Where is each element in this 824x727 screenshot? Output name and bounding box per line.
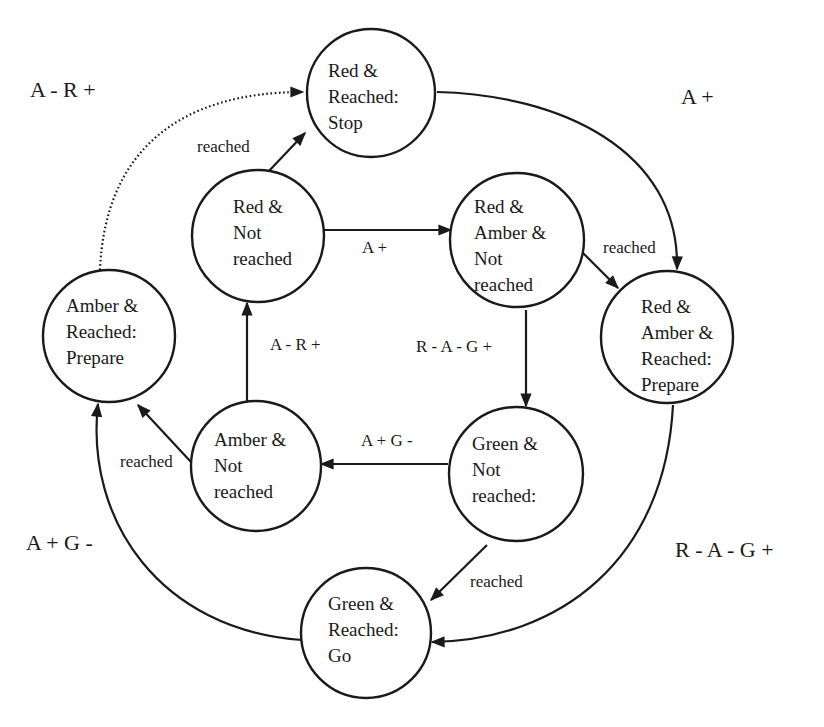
label-a-plus-g-minus-outer: A + G - — [26, 530, 93, 555]
node-line: Reached: — [641, 348, 712, 369]
node-line: Not — [472, 459, 501, 480]
node-line: Red & — [328, 60, 378, 81]
state-amber-not-reached: Amber & Not reached — [191, 401, 321, 531]
node-line: Not — [214, 455, 243, 476]
state-red-reached-stop: Red & Reached: Stop — [307, 29, 435, 157]
node-line: Amber & — [214, 429, 287, 450]
state-red-amber-not-reached: Red & Amber & Not reached — [450, 173, 584, 307]
node-line: Prepare — [641, 374, 699, 395]
node-line: Green & — [472, 433, 538, 454]
node-line: Go — [328, 645, 351, 666]
node-line: Red & — [641, 296, 691, 317]
label-a-plus-outer: A + — [681, 84, 714, 109]
node-line: reached: — [472, 485, 536, 506]
node-line: Stop — [328, 112, 363, 133]
edge-red-not-to-red-reached — [268, 133, 305, 172]
traffic-light-state-diagram: Red & Reached: Stop Red & Not reached Re… — [0, 0, 824, 727]
node-line: reached — [233, 248, 293, 269]
state-red-not-reached: Red & Not reached — [192, 170, 324, 302]
node-line: Amber & — [474, 222, 547, 243]
label-amber-not-reached: reached — [120, 452, 173, 471]
node-line: Not — [233, 222, 262, 243]
node-line: Amber & — [66, 295, 139, 316]
label-red-not-reached: reached — [197, 137, 250, 156]
state-green-not-reached: Green & Not reached: — [449, 407, 583, 541]
node-line: Reached: — [328, 86, 399, 107]
node-line: Not — [474, 248, 503, 269]
label-green-not-reached: reached — [470, 572, 523, 591]
node-line: reached — [214, 481, 274, 502]
node-line: Reached: — [66, 321, 137, 342]
state-amber-reached-prepare: Amber & Reached: Prepare — [43, 270, 175, 402]
label-a-plus-g-minus-inner: A + G - — [361, 431, 413, 450]
state-green-reached-go: Green & Reached: Go — [301, 568, 431, 698]
label-r-minus-a-minus-g-plus-outer: R - A - G + — [675, 537, 774, 562]
node-line: Green & — [328, 593, 394, 614]
node-line: Reached: — [328, 619, 399, 640]
node-line: reached — [474, 274, 534, 295]
state-red-amber-reached-prepare: Red & Amber & Reached: Prepare — [601, 271, 733, 403]
label-a-minus-r-plus-inner: A - R + — [270, 335, 321, 354]
node-line: Amber & — [641, 322, 714, 343]
node-line: Red & — [233, 196, 283, 217]
label-red-not-a-plus: A + — [362, 238, 387, 257]
label-red-amber-not-reached: reached — [603, 238, 656, 257]
label-r-minus-a-minus-g-plus-inner: R - A - G + — [416, 337, 492, 356]
node-line: Red & — [474, 196, 524, 217]
label-a-minus-r-plus-outer: A - R + — [30, 77, 96, 102]
edge-red-amber-not-to-red-amber-reached — [583, 253, 618, 288]
node-line: Prepare — [66, 347, 124, 368]
